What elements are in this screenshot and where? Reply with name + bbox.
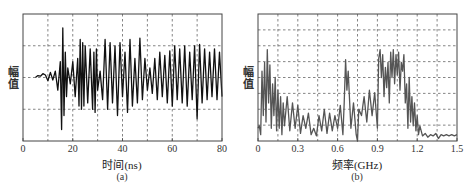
x-tick-label: 20 bbox=[68, 143, 78, 154]
plot-frame bbox=[258, 14, 457, 141]
y-axis-label-a: 幅值 bbox=[5, 66, 21, 90]
x-tick-label: 0.6 bbox=[331, 143, 344, 154]
x-tick-label: 0 bbox=[21, 143, 26, 154]
x-tick-label: 60 bbox=[167, 143, 177, 154]
x-tick-label: 40 bbox=[118, 143, 128, 154]
data-series bbox=[35, 28, 222, 130]
panel-a-time-domain: 幅值 020406080 时间(ns) (a) bbox=[0, 0, 235, 186]
panel-label-b: (b) bbox=[351, 171, 363, 182]
panel-b-frequency-domain: 幅值 00.30.60.91.21.5 频率(GHz) (b) bbox=[235, 0, 470, 186]
x-tick-label: 1.2 bbox=[411, 143, 424, 154]
y-axis-label-b: 幅值 bbox=[240, 66, 256, 90]
x-tick-label: 1.5 bbox=[451, 143, 464, 154]
x-tick-label: 80 bbox=[217, 143, 227, 154]
x-tick-label: 0.3 bbox=[292, 143, 305, 154]
panel-label-a: (a) bbox=[116, 171, 127, 182]
x-tick-label: 0.9 bbox=[371, 143, 384, 154]
x-axis-label-b: 频率(GHz) bbox=[332, 156, 382, 172]
x-axis-label-a: 时间(ns) bbox=[102, 156, 141, 172]
x-tick-label: 0 bbox=[256, 143, 261, 154]
